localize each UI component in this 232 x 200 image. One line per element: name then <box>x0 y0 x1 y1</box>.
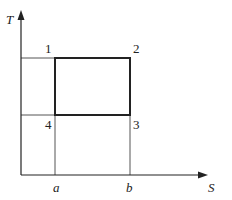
x-axis-label: S <box>208 180 215 195</box>
y-axis-arrow-icon <box>18 10 25 20</box>
point-label-1: 1 <box>45 41 52 56</box>
point-label-3: 3 <box>133 117 140 132</box>
ts-diagram: T S a b 1 2 3 4 <box>0 0 232 200</box>
y-axis-label: T <box>6 12 14 27</box>
point-label-2: 2 <box>133 41 140 56</box>
cycle-rectangle <box>55 58 130 115</box>
x-tick-a: a <box>53 180 60 195</box>
x-axis-arrow-icon <box>198 172 208 179</box>
point-label-4: 4 <box>45 117 52 132</box>
x-tick-b: b <box>126 180 133 195</box>
